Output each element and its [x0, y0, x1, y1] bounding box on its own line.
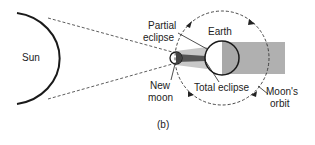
- new-moon-label-1: New: [150, 80, 171, 91]
- new-moon-label-2: moon: [148, 92, 173, 103]
- sun-label: Sun: [22, 52, 40, 63]
- earth-label: Earth: [208, 26, 232, 37]
- partial-eclipse-label-2: eclipse: [143, 32, 175, 43]
- partial-eclipse-leader: [178, 33, 207, 49]
- moons-orbit-label-1: Moon's: [266, 86, 298, 97]
- panel-label: (b): [157, 119, 169, 130]
- solar-eclipse-diagram: Sun Partial eclipse Earth New moon Total…: [0, 0, 315, 145]
- orbit-arrow-top-right: [248, 19, 255, 25]
- partial-eclipse-label-1: Partial: [148, 20, 176, 31]
- total-eclipse-label: Total eclipse: [194, 82, 249, 93]
- moons-orbit-label-2: orbit: [270, 98, 290, 109]
- new-moon-leader: [171, 64, 175, 80]
